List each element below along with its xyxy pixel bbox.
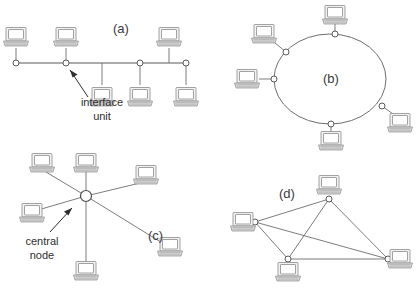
star-spoke [46, 172, 86, 196]
ring-node [332, 31, 338, 37]
interface-unit-label-line1: interface [81, 96, 123, 108]
star-computers [20, 154, 183, 281]
computer-icon [276, 263, 301, 282]
bus-links [16, 48, 186, 85]
computer-icon [134, 166, 159, 185]
central-node-hub [81, 191, 92, 202]
computer-icon [74, 154, 99, 173]
interface-unit-node [63, 60, 69, 66]
mesh-node [326, 196, 332, 202]
topology-canvas: (a) interface unit (b) (c) [0, 0, 418, 288]
mesh-link [288, 199, 329, 259]
computer-icon [174, 88, 199, 107]
interface-unit-label-line2: unit [93, 110, 111, 122]
interface-unit-node [13, 60, 19, 66]
ring-node [271, 76, 277, 82]
star-spokes [38, 172, 164, 262]
panel-label-b: (b) [323, 71, 339, 86]
central-node-label-line1: central [25, 235, 58, 247]
computer-icon [4, 28, 29, 47]
star-spoke [86, 183, 140, 196]
network-topology-figure: (a) interface unit (b) (c) [0, 0, 418, 288]
interface-unit-annotation: interface unit [70, 70, 123, 122]
star-spoke [38, 196, 86, 210]
mesh-nodes [252, 196, 391, 262]
mesh-link [329, 199, 388, 259]
computer-icon [74, 262, 99, 281]
interface-unit-node [137, 60, 143, 66]
computer-icon [20, 204, 45, 223]
panel-label-c: (c) [148, 228, 163, 243]
mesh-computers [231, 176, 413, 282]
computer-icon [388, 114, 413, 133]
panel-ring: (b) [235, 6, 413, 151]
mesh-link [255, 199, 329, 222]
computer-icon [128, 88, 153, 107]
mesh-links [255, 199, 388, 259]
computer-icon [388, 250, 413, 269]
panel-label-d: (d) [279, 186, 295, 201]
computer-icon [252, 25, 277, 44]
ring-node [283, 49, 289, 55]
bus-computers [4, 28, 199, 107]
panel-label-a: (a) [113, 21, 129, 36]
panel-star: (c) central node [20, 154, 183, 281]
computer-icon [323, 6, 348, 25]
ring-node [379, 103, 385, 109]
panel-mesh: (d) [231, 176, 413, 282]
panel-bus: (a) interface unit [4, 21, 199, 122]
computer-icon [30, 154, 55, 173]
computer-icon [235, 70, 260, 89]
computer-icon [231, 213, 256, 232]
computer-icon [157, 28, 182, 47]
computer-icon [317, 176, 342, 195]
mesh-link [255, 222, 288, 259]
interface-unit-node [183, 60, 189, 66]
computer-icon [319, 132, 344, 151]
ring-node [328, 121, 334, 127]
mesh-node [285, 256, 291, 262]
mesh-link [255, 222, 388, 259]
computer-icon [54, 28, 79, 47]
central-node-label-line2: node [30, 249, 54, 261]
